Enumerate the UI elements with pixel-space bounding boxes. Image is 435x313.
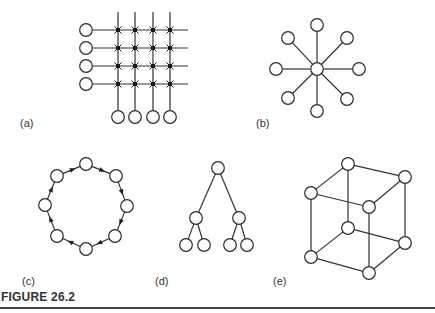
node-circle	[399, 171, 412, 184]
edge-line	[354, 230, 399, 242]
edge-line	[316, 168, 343, 189]
arrow-icon	[120, 219, 121, 222]
node-circle	[341, 32, 354, 45]
edge-line	[199, 174, 216, 212]
figure-canvas	[0, 0, 435, 313]
edge-line	[292, 73, 312, 93]
node-circle	[164, 111, 177, 124]
node-circle	[110, 170, 123, 183]
node-circle	[305, 187, 318, 200]
node-circle	[305, 251, 318, 264]
crossbar-diagram	[80, 12, 188, 123]
edge-line	[354, 165, 399, 175]
edge-line	[321, 43, 342, 65]
node-circle	[190, 212, 203, 225]
panel-label-e: (e)	[273, 275, 286, 287]
node-circle	[311, 63, 324, 76]
node-circle	[180, 239, 193, 252]
star-diagram	[270, 19, 366, 118]
edge-line	[232, 224, 237, 239]
node-circle	[342, 222, 355, 235]
arrow-icon	[99, 242, 102, 243]
node-circle	[80, 78, 93, 91]
node-circle	[129, 111, 142, 124]
node-circle	[353, 63, 366, 76]
arrow-icon	[50, 219, 51, 222]
edge-line	[374, 247, 400, 269]
node-circle	[198, 239, 211, 252]
panel-label-d: (d)	[155, 275, 168, 287]
node-circle	[233, 212, 246, 225]
arrow-icon	[70, 242, 73, 243]
panel-label-c: (c)	[22, 275, 35, 287]
arrow-icon	[121, 189, 122, 192]
node-circle	[80, 42, 93, 55]
node-circle	[241, 239, 254, 252]
node-circle	[311, 105, 324, 118]
node-circle	[80, 24, 93, 37]
edge-line	[188, 224, 194, 239]
ring-diagram	[39, 158, 134, 256]
edge-line	[198, 224, 202, 239]
cube-diagram	[305, 158, 412, 280]
figure-caption: FIGURE 26.2	[1, 290, 75, 304]
node-circle	[109, 230, 122, 243]
node-circle	[341, 93, 354, 106]
arrow-icon	[99, 169, 102, 170]
node-circle	[342, 158, 355, 171]
node-circle	[121, 200, 134, 213]
edge-line	[317, 194, 363, 205]
node-circle	[80, 243, 93, 256]
edge-line	[374, 181, 400, 203]
node-circle	[270, 63, 283, 76]
node-circle	[80, 158, 93, 171]
edge-line	[241, 224, 245, 239]
edge-line	[292, 43, 312, 65]
arrow-icon	[70, 169, 73, 170]
edge-line	[220, 174, 236, 212]
edge-line	[316, 232, 343, 253]
node-circle	[80, 60, 93, 73]
node-circle	[51, 230, 64, 243]
node-circle	[212, 162, 225, 175]
node-circle	[311, 19, 324, 32]
node-circle	[39, 199, 52, 212]
node-circle	[363, 267, 376, 280]
tree-diagram	[180, 162, 254, 252]
node-circle	[282, 92, 295, 105]
panel-label-b: (b)	[256, 117, 269, 129]
node-circle	[147, 111, 160, 124]
node-circle	[282, 32, 295, 45]
node-circle	[112, 111, 125, 124]
arrow-icon	[50, 189, 51, 192]
edge-line	[317, 259, 363, 272]
node-circle	[51, 170, 64, 183]
node-circle	[399, 237, 412, 250]
node-circle	[363, 201, 376, 214]
caption-divider	[0, 307, 435, 309]
node-circle	[224, 239, 237, 252]
panel-label-a: (a)	[20, 117, 33, 129]
edge-line	[321, 73, 342, 94]
